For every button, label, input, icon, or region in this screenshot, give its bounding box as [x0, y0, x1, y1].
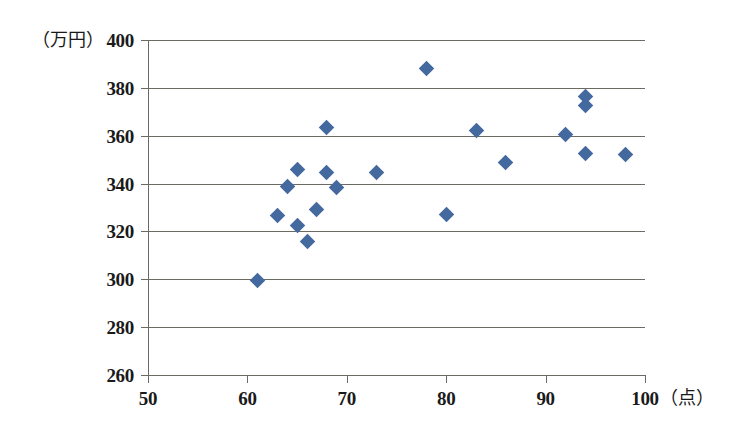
y-axis-tick — [141, 88, 148, 89]
y-axis-tick — [141, 327, 148, 328]
y-axis-tick — [141, 40, 148, 41]
gridline-y — [148, 279, 645, 280]
gridline-y — [148, 327, 645, 328]
x-axis-label-row: 5060708090100 — [0, 375, 751, 405]
data-point — [319, 165, 335, 181]
y-axis-tick-label: 320 — [78, 222, 134, 241]
x-axis-tick-label: 80 — [416, 389, 476, 408]
data-point — [617, 147, 633, 163]
data-point — [438, 207, 454, 223]
x-axis-tick-label: 100 — [615, 389, 675, 408]
y-axis-tick-label: 340 — [78, 175, 134, 194]
data-point — [419, 61, 435, 77]
x-axis-tick-label: 90 — [516, 389, 576, 408]
data-point — [329, 180, 345, 196]
data-point — [250, 272, 266, 288]
y-axis-tick — [141, 279, 148, 280]
gridline-y — [148, 40, 645, 41]
x-axis-tick-label: 70 — [317, 389, 377, 408]
data-point — [558, 127, 574, 143]
data-point — [578, 146, 594, 162]
y-axis-tick — [141, 184, 148, 185]
x-axis-tick-label: 50 — [118, 389, 178, 408]
x-axis-tick-label: 60 — [217, 389, 277, 408]
scatter-chart: （万円） （点） 260280300320340360380400 506070… — [0, 0, 751, 434]
y-axis-tick-label: 280 — [78, 318, 134, 337]
gridline-y — [148, 231, 645, 232]
data-point — [309, 202, 325, 218]
gridline-y — [148, 88, 645, 89]
y-axis-tick-label: 300 — [78, 270, 134, 289]
data-point — [299, 234, 315, 250]
data-point — [289, 162, 305, 178]
data-point — [498, 154, 514, 170]
y-axis-tick-label: 360 — [78, 127, 134, 146]
y-axis-tick — [141, 231, 148, 232]
y-axis-tick-label: 400 — [78, 31, 134, 50]
y-axis-tick-label: 380 — [78, 79, 134, 98]
plot-area: 260280300320340360380400 — [148, 40, 645, 375]
data-point — [279, 179, 295, 195]
y-axis-tick — [141, 136, 148, 137]
data-point — [269, 208, 285, 224]
data-point — [319, 119, 335, 135]
data-point — [578, 98, 594, 114]
gridline-y — [148, 184, 645, 185]
data-point — [369, 165, 385, 181]
